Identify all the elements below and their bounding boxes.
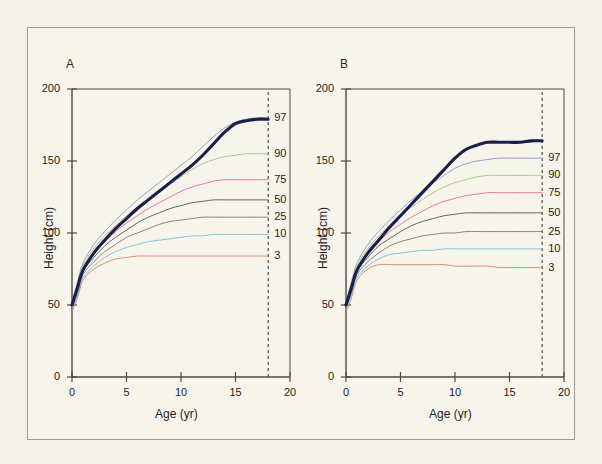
percentile-label-90: 90 (274, 147, 286, 159)
y-tick-label-0: 0 (30, 370, 60, 382)
x-tick-label-15: 15 (498, 386, 522, 398)
percentile-curve-3 (72, 256, 268, 312)
x-tick-label-5: 5 (389, 386, 413, 398)
percentile-label-10: 10 (274, 227, 286, 239)
percentile-label-3: 3 (548, 261, 554, 273)
axis-ticks (341, 89, 564, 382)
x-tick-label-0: 0 (334, 386, 358, 398)
percentile-label-10: 10 (548, 242, 560, 254)
y-tick-label-50: 50 (304, 298, 334, 310)
x-tick-label-10: 10 (169, 386, 193, 398)
percentile-curve-50 (72, 200, 268, 307)
x-tick-label-0: 0 (60, 386, 84, 398)
y-tick-label-150: 150 (30, 154, 60, 166)
y-tick-label-100: 100 (304, 226, 334, 238)
percentile-curve-90 (72, 154, 268, 304)
y-tick-label-200: 200 (30, 82, 60, 94)
percentile-label-90: 90 (548, 168, 560, 180)
percentile-label-25: 25 (274, 210, 286, 222)
patient-growth-curve (72, 119, 268, 305)
percentile-curve-3 (346, 264, 542, 312)
y-tick-label-50: 50 (30, 298, 60, 310)
axis-lines (72, 89, 290, 377)
percentile-curve-90 (346, 175, 542, 303)
percentile-curve-10 (346, 249, 542, 310)
percentile-label-97: 97 (548, 151, 560, 163)
percentile-label-25: 25 (548, 225, 560, 237)
x-tick-label-20: 20 (278, 386, 302, 398)
percentile-curve-97 (346, 158, 542, 302)
x-tick-label-5: 5 (115, 386, 139, 398)
percentile-label-50: 50 (548, 206, 560, 218)
y-tick-label-100: 100 (30, 226, 60, 238)
percentile-curve-50 (346, 213, 542, 307)
plot-area (28, 28, 302, 441)
percentile-curve-97 (72, 118, 268, 302)
panel-a: AHeight (cm)Age (yr)97907550251030501001… (28, 28, 302, 441)
patient-growth-curve (346, 141, 542, 305)
percentile-label-50: 50 (274, 193, 286, 205)
percentile-label-3: 3 (274, 249, 280, 261)
x-tick-label-15: 15 (224, 386, 248, 398)
percentile-label-97: 97 (274, 111, 286, 123)
plot-area (302, 28, 576, 441)
y-tick-label-200: 200 (304, 82, 334, 94)
x-tick-label-10: 10 (443, 386, 467, 398)
percentile-label-75: 75 (548, 186, 560, 198)
panel-b: BHeight (cm)Age (yr)97907550251030501001… (302, 28, 576, 441)
axis-ticks (67, 89, 290, 382)
percentile-curve-25 (72, 217, 268, 308)
figure-frame: AHeight (cm)Age (yr)97907550251030501001… (27, 27, 575, 440)
y-tick-label-150: 150 (304, 154, 334, 166)
x-tick-label-20: 20 (552, 386, 576, 398)
percentile-label-75: 75 (274, 173, 286, 185)
y-tick-label-0: 0 (304, 370, 334, 382)
